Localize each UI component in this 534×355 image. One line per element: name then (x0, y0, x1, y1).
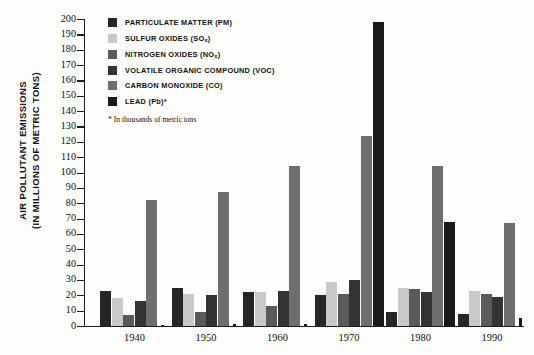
y-tick-label: 30 (50, 274, 76, 284)
y-tick (77, 111, 84, 112)
y-tick (77, 234, 84, 235)
bar (172, 288, 183, 326)
y-tick (77, 203, 84, 204)
y-tick (77, 219, 84, 220)
y-tick (77, 280, 84, 281)
x-axis-line (84, 326, 524, 327)
legend-swatch-icon (108, 81, 117, 90)
bar (100, 291, 111, 326)
legend-footnote: * In thousands of metric tons (108, 115, 338, 124)
y-tick (77, 249, 84, 250)
legend-item[interactable]: VOLATILE ORGANIC COMPOUND (VOC) (108, 63, 338, 76)
bar (243, 292, 254, 326)
y-tick (77, 96, 84, 97)
y-tick-label: 40 (50, 259, 76, 269)
x-tick-label: 1980 (381, 332, 461, 343)
y-tick (77, 65, 84, 66)
bar (233, 324, 236, 326)
bar (398, 288, 409, 326)
bar (278, 291, 289, 326)
bar (519, 318, 522, 326)
legend-swatch-icon (108, 18, 117, 27)
bar (266, 306, 277, 326)
y-tick-label: 20 (50, 290, 76, 300)
legend-item[interactable]: NITROGEN OXIDES (NOx) (108, 48, 338, 61)
bar (504, 223, 515, 326)
y-tick (77, 265, 84, 266)
y-tick (77, 50, 84, 51)
y-tick-label: 140 (50, 106, 76, 116)
bar (161, 325, 164, 326)
legend-item-label: NITROGEN OXIDES (NOx) (125, 50, 220, 59)
x-tick-label: 1950 (166, 332, 246, 343)
bar (123, 315, 134, 326)
y-tick (77, 173, 84, 174)
bar (373, 22, 384, 326)
y-tick-label: 130 (50, 121, 76, 131)
legend-item-label: LEAD (Pb)* (125, 97, 167, 106)
y-tick (77, 19, 84, 20)
y-axis-tick-labels: 2001901801701601501401301201101009080706… (46, 19, 76, 327)
legend-swatch-icon (108, 34, 117, 43)
legend-swatch-icon (108, 97, 117, 106)
y-tick-label: 100 (50, 167, 76, 177)
y-axis-title: AIR POLLUTANT EMISSIONS (IN MILLIONS OF … (17, 36, 42, 266)
y-tick-label: 0 (50, 321, 76, 331)
bar (195, 312, 206, 326)
bar (492, 297, 503, 326)
x-tick-label: 1960 (238, 332, 318, 343)
legend-item-label: CARBON MONOXIDE (CO) (125, 81, 223, 90)
bar (444, 222, 455, 326)
bar (409, 289, 420, 326)
chart-root: AIR POLLUTANT EMISSIONS (IN MILLIONS OF … (0, 0, 534, 355)
y-tick-label: 70 (50, 213, 76, 223)
y-tick-label: 80 (50, 198, 76, 208)
bar (304, 324, 307, 326)
legend-swatch-icon (108, 66, 117, 75)
y-tick (77, 126, 84, 127)
y-tick-label: 120 (50, 136, 76, 146)
y-axis-title-line1: AIR POLLUTANT EMISSIONS (17, 36, 30, 266)
bar (218, 192, 229, 326)
bar (386, 312, 397, 326)
y-tick-label: 50 (50, 244, 76, 254)
bar (206, 295, 217, 326)
bar (481, 294, 492, 326)
y-tick (77, 188, 84, 189)
y-tick-label: 10 (50, 305, 76, 315)
bar (255, 292, 266, 326)
y-axis-line (84, 19, 85, 327)
chart-legend: PARTICULATE MATTER (PM)SULFUR OXIDES (SO… (108, 16, 338, 124)
y-tick (77, 326, 84, 327)
bar (146, 200, 157, 326)
y-tick-label: 200 (50, 14, 76, 24)
bar (349, 280, 360, 326)
legend-item-label: VOLATILE ORGANIC COMPOUND (VOC) (125, 66, 275, 75)
y-tick-label: 150 (50, 90, 76, 100)
legend-item-label: SULFUR OXIDES (SOx) (125, 34, 211, 43)
bar (326, 282, 337, 327)
y-tick-label: 180 (50, 44, 76, 54)
bar (458, 314, 469, 326)
bar (315, 295, 326, 326)
legend-item[interactable]: SULFUR OXIDES (SOx) (108, 32, 338, 45)
legend-items: PARTICULATE MATTER (PM)SULFUR OXIDES (SO… (108, 16, 338, 108)
bar (289, 166, 300, 326)
y-tick-label: 160 (50, 75, 76, 85)
bar (469, 291, 480, 326)
bar-group (386, 19, 455, 326)
legend-item[interactable]: PARTICULATE MATTER (PM) (108, 16, 338, 29)
bar (183, 294, 194, 326)
x-tick-label: 1940 (95, 332, 175, 343)
bar (112, 298, 123, 326)
legend-item[interactable]: LEAD (Pb)* (108, 95, 338, 108)
legend-item-label: PARTICULATE MATTER (PM) (125, 18, 232, 27)
y-tick (77, 34, 84, 35)
y-tick-label: 110 (50, 152, 76, 162)
x-tick-label: 1990 (452, 332, 532, 343)
y-tick (77, 157, 84, 158)
y-tick (77, 80, 84, 81)
legend-item[interactable]: CARBON MONOXIDE (CO) (108, 79, 338, 92)
x-tick-label: 1970 (309, 332, 389, 343)
legend-swatch-icon (108, 50, 117, 59)
